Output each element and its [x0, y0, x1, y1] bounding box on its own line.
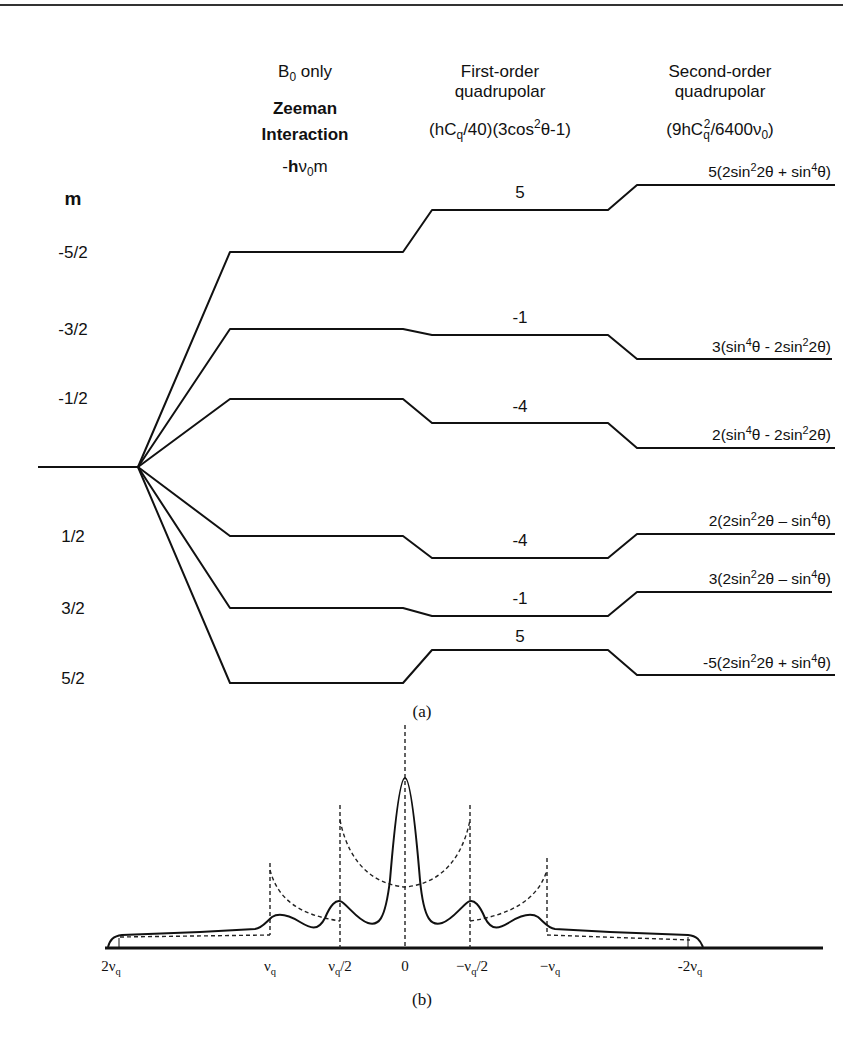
tick-label: νq [264, 958, 276, 977]
tick-label: -2νq [678, 958, 703, 977]
tick-label: 0 [401, 958, 409, 975]
tick-label: −νq/2 [456, 958, 488, 977]
tick-label: −νq [540, 958, 561, 977]
quadrupolar-spectrum [0, 0, 843, 1051]
tick-label: νq/2 [328, 958, 352, 977]
caption-b: (b) [412, 990, 432, 1010]
tick-label: 2νq [101, 958, 121, 977]
